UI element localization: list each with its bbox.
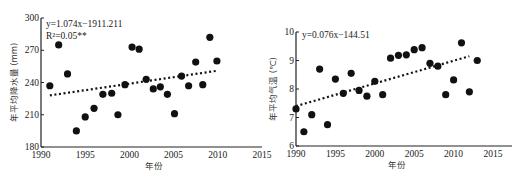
data-point <box>387 55 394 62</box>
data-point <box>395 52 402 59</box>
data-point <box>206 34 213 41</box>
r-squared-label: R²=0.05** <box>46 31 87 41</box>
data-point <box>157 83 164 90</box>
x-tick-label: 1995 <box>76 150 95 160</box>
data-point <box>90 105 97 112</box>
data-point <box>442 91 449 98</box>
data-point <box>46 82 53 89</box>
data-point <box>73 127 80 134</box>
data-point <box>171 110 178 117</box>
data-point <box>64 70 71 77</box>
x-axis-label: 年份 <box>388 160 406 170</box>
data-point <box>340 90 347 97</box>
x-axis-label: 年份 <box>145 161 163 171</box>
data-point <box>114 111 121 118</box>
data-point <box>308 111 315 118</box>
x-tick-label: 1995 <box>326 149 345 159</box>
data-point <box>418 44 425 51</box>
data-point <box>136 46 143 53</box>
x-tick-label: 2015 <box>484 149 503 159</box>
x-tick-label: 2010 <box>444 149 463 159</box>
x-tick-label: 1990 <box>32 150 51 160</box>
y-tick-label: 300 <box>25 13 40 23</box>
data-point <box>411 46 418 53</box>
data-point <box>363 93 370 100</box>
y-axis-label: 年平均气温 (℃) <box>268 57 278 121</box>
data-point <box>128 43 135 50</box>
data-point <box>143 76 150 83</box>
y-tick-label: 9 <box>289 56 294 66</box>
data-point <box>426 60 433 67</box>
y-axis-label: 年平均降水量 (mm) <box>9 43 19 123</box>
x-tick-label: 1990 <box>287 149 306 159</box>
data-point <box>99 91 106 98</box>
regression-equation: y=0.076x−144.51 <box>302 30 370 40</box>
data-point <box>185 82 192 89</box>
data-point <box>150 85 157 92</box>
x-tick-label: 2000 <box>120 150 139 160</box>
regression-equation: y=1.074x−1911.211 <box>46 19 123 29</box>
data-point <box>316 65 323 72</box>
data-point <box>371 78 378 85</box>
data-point <box>300 128 307 135</box>
data-point <box>474 57 481 64</box>
y-tick-label: 8 <box>289 84 294 94</box>
data-point <box>403 51 410 58</box>
data-point <box>348 70 355 77</box>
data-point <box>355 87 362 94</box>
data-point <box>434 63 441 70</box>
x-tick-label: 2010 <box>208 150 227 160</box>
x-tick-label: 2015 <box>253 150 272 160</box>
data-point <box>192 58 199 65</box>
y-tick-label: 270 <box>25 45 40 55</box>
data-point <box>458 39 465 46</box>
chart-canvas: 180210240270300199019952000200520102015年… <box>0 0 524 182</box>
data-point <box>164 91 171 98</box>
data-point <box>108 90 115 97</box>
data-point <box>213 57 220 64</box>
data-point <box>121 81 128 88</box>
y-tick-label: 7 <box>289 113 294 123</box>
data-point <box>450 76 457 83</box>
y-tick-label: 10 <box>285 27 295 37</box>
data-point <box>324 121 331 128</box>
data-point <box>55 41 62 48</box>
data-point <box>466 88 473 95</box>
trendline <box>296 56 469 106</box>
x-tick-label: 2005 <box>164 150 183 160</box>
x-tick-label: 2005 <box>405 149 424 159</box>
chart-1: 180210240270300199019952000200520102015年… <box>9 13 272 171</box>
y-tick-label: 210 <box>25 110 40 120</box>
data-point <box>178 72 185 79</box>
y-tick-label: 240 <box>25 78 40 88</box>
trendline <box>50 71 218 96</box>
x-tick-label: 2000 <box>365 149 384 159</box>
data-point <box>379 91 386 98</box>
data-point <box>292 105 299 112</box>
data-point <box>82 113 89 120</box>
data-point <box>199 81 206 88</box>
data-point <box>332 75 339 82</box>
chart-2: 678910199019952000200520102015年份年平均气温 (℃… <box>268 27 512 170</box>
